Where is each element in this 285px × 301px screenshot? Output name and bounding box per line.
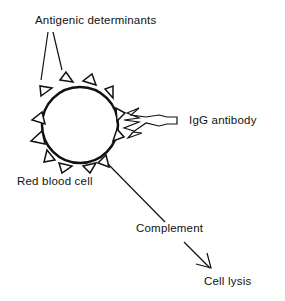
- leader-line-2: [53, 32, 62, 70]
- red-blood-cell-circle: [42, 87, 118, 163]
- label-red-blood-cell: Red blood cell: [17, 175, 93, 187]
- label-cell-lysis: Cell lysis: [204, 275, 251, 287]
- label-antigenic-determinants: Antigenic determinants: [35, 14, 156, 26]
- diagram-canvas: [0, 0, 285, 301]
- leader-line-1: [41, 32, 48, 80]
- arrowhead-icon: [196, 253, 211, 268]
- igg-antibody-shape: [124, 108, 177, 138]
- label-igg-antibody: IgG antibody: [189, 114, 257, 126]
- arrow-line-upper: [108, 164, 165, 222]
- label-complement: Complement: [136, 222, 203, 234]
